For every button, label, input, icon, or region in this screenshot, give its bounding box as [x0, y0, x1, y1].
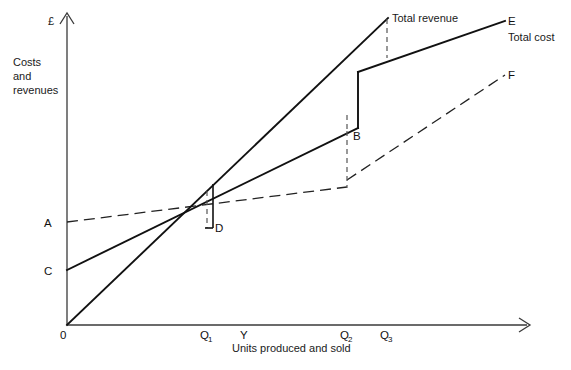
- origin-label: 0: [60, 329, 66, 341]
- fixed-cost-segment-2: [347, 75, 505, 180]
- point-label-b: B: [353, 130, 361, 142]
- x-tick-q3-subscript: 3: [388, 335, 393, 344]
- x-axis-title: Units produced and sold: [232, 342, 351, 354]
- series-label-total-cost: Total cost: [508, 31, 554, 43]
- break-even-chart: £ Costs and revenues Units produced and …: [0, 0, 571, 370]
- fixed-cost-line-group: [67, 75, 505, 222]
- point-label-a: A: [44, 217, 52, 229]
- chart-canvas: £ Costs and revenues Units produced and …: [0, 0, 571, 370]
- point-label-e: E: [508, 15, 516, 27]
- x-tick-label-q1: Q 1: [200, 329, 213, 344]
- point-label-d: D: [215, 222, 223, 234]
- total-cost-segment-after-step: [358, 21, 505, 72]
- point-label-f: F: [508, 69, 515, 81]
- total-cost-line-group: [67, 21, 505, 270]
- x-tick-label-y-breakeven: Y: [240, 329, 248, 341]
- y-axis-currency-symbol: £: [48, 15, 54, 27]
- vertical-markers-group: [205, 19, 387, 228]
- y-axis-title-line-2: and: [13, 70, 31, 82]
- total-revenue-line: [67, 18, 388, 325]
- x-tick-q1-subscript: 1: [208, 335, 213, 344]
- x-tick-label-q3: Q 3: [380, 329, 393, 344]
- series-label-total-revenue: Total revenue: [392, 12, 458, 24]
- y-axis-title-line-1: Costs: [13, 56, 42, 68]
- point-label-c: C: [44, 265, 52, 277]
- x-tick-q2-subscript: 2: [348, 335, 353, 344]
- y-axis-title-line-3: revenues: [13, 84, 59, 96]
- total-revenue-line-group: [67, 18, 388, 325]
- axes-group: [60, 13, 530, 332]
